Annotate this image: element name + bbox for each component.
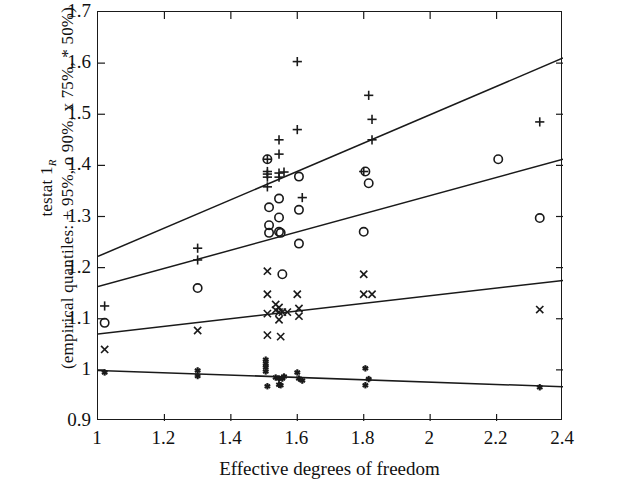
regression-line-fit-50 [98,370,563,386]
y-tick-label: 0.9 [45,410,91,429]
x-tick-label: 1.4 [208,428,252,447]
y-tick-label: 1.5 [45,103,91,122]
x-tick-label: 2.4 [540,428,584,447]
y-tick-label: 1.1 [45,308,91,327]
regression-line-fit-90 [98,159,563,286]
x-tick-label: 1.8 [341,428,385,447]
x-axis-label: Effective degrees of freedom [97,458,562,480]
y-tick-label: 1.7 [45,1,91,20]
plot-area [97,11,562,420]
regression-line-fit-75 [98,280,563,334]
x-tick-label: 1.2 [141,428,185,447]
y-tick-label: 1 [45,359,91,378]
y-tick-label: 1.3 [45,206,91,225]
plot-canvas [98,12,563,421]
regression-line-fit-95 [98,58,563,256]
series-o [100,155,544,327]
y-tick-label: 1.4 [45,154,91,173]
x-tick-label: 1.6 [274,428,318,447]
x-tick-label: 1 [75,428,119,447]
x-tick-label: 2 [407,428,451,447]
scatter-plot-figure: testat 1R (empirical quantiles: + 95%, o… [0,0,627,489]
series-x [101,268,543,353]
x-tick-label: 2.2 [474,428,518,447]
y-tick-label: 1.2 [45,257,91,276]
y-tick-label: 1.6 [45,52,91,71]
